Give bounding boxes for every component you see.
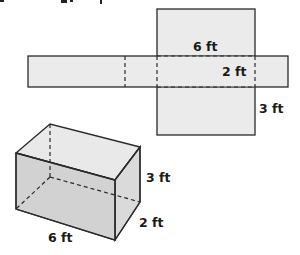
net-height-label: 3 ft xyxy=(259,101,283,116)
prism-length-label: 6 ft xyxy=(48,230,72,245)
rectangular-prism: 3 ft 2 ft 6 ft xyxy=(16,124,170,245)
prism-width-label: 2 ft xyxy=(139,215,163,230)
net-length-label: 6 ft xyxy=(193,39,217,54)
net-width-label: 2 ft xyxy=(222,64,246,79)
cropped-heading-fragment xyxy=(0,0,102,4)
prism-height-label: 3 ft xyxy=(146,170,170,185)
diagram-canvas: 6 ft 2 ft 3 ft 3 ft 2 ft xyxy=(0,0,300,255)
prism-net: 6 ft 2 ft 3 ft xyxy=(28,9,288,135)
